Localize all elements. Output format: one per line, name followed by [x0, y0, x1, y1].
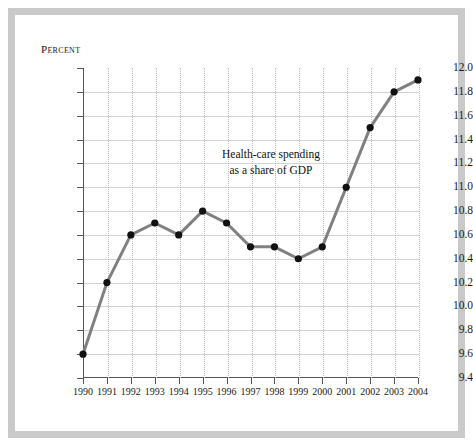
- y-axis-tick-label: 11.8: [429, 86, 473, 98]
- x-axis-tick-mark: [274, 378, 275, 384]
- plot-area: [83, 68, 418, 378]
- x-axis-tick-label: 2004: [403, 387, 433, 397]
- y-axis-tick-label: 10.6: [429, 229, 473, 241]
- y-axis-tick-mark: [77, 140, 83, 141]
- y-axis-unit-label: Percent: [41, 43, 80, 55]
- gridline-vertical: [323, 68, 324, 378]
- gridline-vertical: [347, 68, 348, 378]
- y-axis-tick-mark: [77, 68, 83, 69]
- gridline-vertical: [419, 68, 420, 378]
- gridline-vertical: [132, 68, 133, 378]
- y-axis-tick-mark: [77, 163, 83, 164]
- y-axis-tick-label: 9.6: [429, 348, 473, 360]
- x-axis-tick-mark: [346, 378, 347, 384]
- annotation-line-1: Health-care spending: [196, 147, 346, 163]
- gridline-vertical: [180, 68, 181, 378]
- gridline-vertical: [275, 68, 276, 378]
- x-axis-tick-mark: [370, 378, 371, 384]
- y-axis-tick-mark: [77, 92, 83, 93]
- y-axis-tick-mark: [77, 235, 83, 236]
- y-axis-tick-label: 10.8: [429, 205, 473, 217]
- x-axis-tick-mark: [298, 378, 299, 384]
- y-axis-tick-label: 10.0: [429, 300, 473, 312]
- x-axis-tick-mark: [394, 378, 395, 384]
- x-axis-tick-mark: [131, 378, 132, 384]
- y-axis-tick-mark: [77, 259, 83, 260]
- line-chart: Percent 12.011.811.611.411.211.010.810.6…: [0, 0, 473, 446]
- y-axis-tick-label: 9.8: [429, 324, 473, 336]
- y-axis-tick-mark: [77, 306, 83, 307]
- y-axis-tick-label: 12.0: [429, 62, 473, 74]
- y-axis-tick-label: 10.4: [429, 253, 473, 265]
- figure-frame: Percent 12.011.811.611.411.211.010.810.6…: [0, 0, 473, 446]
- gridline-vertical: [252, 68, 253, 378]
- y-axis-tick-mark: [77, 354, 83, 355]
- y-axis-tick-label: 10.2: [429, 277, 473, 289]
- gridline-vertical: [108, 68, 109, 378]
- y-axis-tick-mark: [77, 116, 83, 117]
- x-axis-tick-mark: [107, 378, 108, 384]
- y-axis-tick-mark: [77, 187, 83, 188]
- x-axis-tick-mark: [322, 378, 323, 384]
- annotation-line-2: as a share of GDP: [196, 163, 346, 179]
- y-axis-tick-mark: [77, 330, 83, 331]
- y-axis-tick-label: 11.6: [429, 110, 473, 122]
- gridline-vertical: [156, 68, 157, 378]
- x-axis-tick-mark: [83, 378, 84, 384]
- x-axis-tick-mark: [203, 378, 204, 384]
- x-axis-tick-mark: [418, 378, 419, 384]
- gridline-vertical: [228, 68, 229, 378]
- x-axis-tick-mark: [227, 378, 228, 384]
- y-axis-tick-label: 11.4: [429, 134, 473, 146]
- x-axis-tick-mark: [251, 378, 252, 384]
- gridline-vertical: [204, 68, 205, 378]
- y-axis-tick-label: 9.4: [429, 372, 473, 384]
- x-axis-tick-mark: [155, 378, 156, 384]
- y-axis-tick-label: 11.2: [429, 157, 473, 169]
- y-axis-tick-mark: [77, 211, 83, 212]
- y-axis-tick-mark: [77, 283, 83, 284]
- gridline-vertical: [395, 68, 396, 378]
- x-axis-tick-mark: [179, 378, 180, 384]
- y-axis-tick-label: 11.0: [429, 181, 473, 193]
- gridline-vertical: [371, 68, 372, 378]
- chart-annotation: Health-care spending as a share of GDP: [196, 147, 346, 178]
- gridline-vertical: [299, 68, 300, 378]
